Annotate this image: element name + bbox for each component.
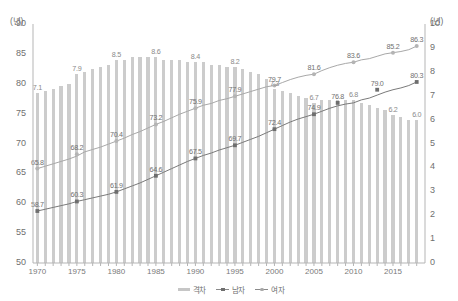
data-label: 6.8 [349,90,358,99]
data-label: 6.7 [309,93,318,102]
y-tick-right: 4 [430,161,450,171]
y-tick-right: 5 [430,138,450,148]
data-label: 83.6 [347,51,360,60]
x-tick: 2000 [254,267,294,276]
legend-label: 격차 [193,284,207,295]
x-tick: 1970 [17,267,57,276]
data-label: 86.3 [410,35,423,44]
y-tick-right: 9 [430,42,450,52]
data-label: 6.2 [388,105,397,114]
legend-label: 남자 [232,284,246,295]
legend-swatch-line-square [216,289,229,290]
data-label: 8.6 [151,47,160,56]
data-label: 72.4 [268,118,281,127]
chart-root: (년) (년) 908580757065605550 109876543210 … [0,0,458,301]
plot-area: 7.17.98.58.68.48.27.36.76.86.26.058.760.… [33,24,425,263]
y-tick-left: 85 [4,48,26,58]
data-label: 8.2 [230,57,239,66]
legend-swatch-line-circle [255,289,268,290]
data-label: 70.4 [110,130,123,139]
y-tick-left: 90 [4,18,26,28]
y-tick-right: 6 [430,114,450,124]
data-label: 8.4 [191,52,200,61]
data-label: 85.2 [387,42,400,51]
legend-swatch-bar [178,288,190,291]
data-label: 75.9 [189,97,202,106]
y-tick-left: 75 [4,108,26,118]
data-label: 77.9 [229,85,242,94]
data-label: 61.9 [110,181,123,190]
data-label: 67.5 [189,147,202,156]
y-tick-right: 10 [430,18,450,28]
data-label: 7.1 [33,83,42,92]
data-label: 8.5 [112,50,121,59]
data-label: 65.8 [31,158,44,167]
legend-item-gap[interactable]: 격차 [178,284,206,295]
data-label: 60.3 [70,190,83,199]
data-label: 68.2 [70,143,83,152]
y-tick-left: 55 [4,227,26,237]
y-tick-left: 70 [4,138,26,148]
chart-legend: 격차남자여자 [178,284,291,295]
data-label: 81.6 [308,63,321,72]
x-tick: 1995 [215,267,255,276]
data-label: 73.2 [149,113,162,122]
data-label: 79.0 [371,79,384,88]
data-label: 80.3 [410,71,423,80]
x-tick: 2005 [294,267,334,276]
data-label: 64.6 [149,165,162,174]
y-tick-right: 2 [430,209,450,219]
y-tick-left: 65 [4,167,26,177]
data-label: 6.0 [412,110,421,119]
data-label: 76.8 [331,92,344,101]
data-label: 74.9 [308,103,321,112]
legend-item-female[interactable]: 여자 [255,284,284,295]
y-tick-right: 8 [430,66,450,76]
y-tick-right: 0 [430,257,450,267]
data-labels-layer: 7.17.98.58.68.48.27.36.76.86.26.058.760.… [33,24,425,263]
y-tick-right: 7 [430,90,450,100]
x-tick: 1975 [57,267,97,276]
y-tick-right: 1 [430,233,450,243]
data-label: 79.7 [268,75,281,84]
legend-label: 여자 [271,284,285,295]
x-tick: 1985 [136,267,176,276]
x-tick: 1990 [175,267,215,276]
x-tick: 2010 [333,267,373,276]
y-tick-left: 60 [4,197,26,207]
y-tick-left: 80 [4,78,26,88]
legend-item-male[interactable]: 남자 [216,284,245,295]
y-tick-left: 50 [4,257,26,267]
data-label: 69.7 [229,134,242,143]
data-label: 58.7 [31,200,44,209]
x-tick: 2015 [373,267,413,276]
y-tick-right: 3 [430,185,450,195]
data-label: 7.9 [72,64,81,73]
x-tick: 1980 [96,267,136,276]
